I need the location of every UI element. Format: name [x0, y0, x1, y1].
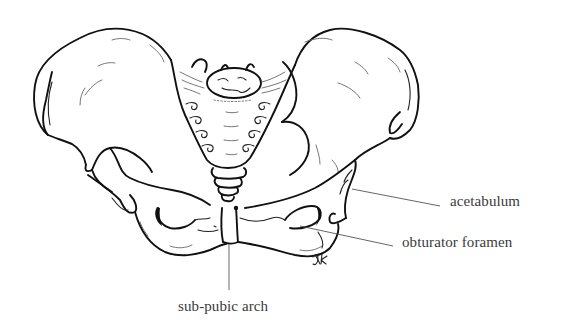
coccyx	[212, 168, 247, 201]
pubic-symphysis	[214, 206, 238, 244]
acetabulum-leader-line	[352, 189, 440, 206]
artist-signature	[313, 254, 327, 265]
left-obturator-foramen	[155, 207, 218, 232]
sacrum	[171, 59, 295, 168]
label-obturator-foramen: obturator foramen	[402, 234, 512, 251]
pelvis-illustration	[0, 0, 561, 335]
obturator-foramen-leader-line	[300, 226, 393, 246]
label-acetabulum: acetabulum	[450, 193, 520, 210]
pelvis-diagram: acetabulum obturator foramen sub-pubic a…	[0, 0, 561, 335]
label-sub-pubic-arch: sub-pubic arch	[178, 298, 268, 315]
